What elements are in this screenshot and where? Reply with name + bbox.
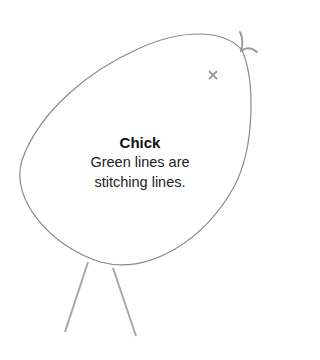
left-leg bbox=[65, 262, 88, 332]
description-line-2: stitching lines. bbox=[60, 172, 220, 192]
description-line-1: Green lines are bbox=[60, 152, 220, 172]
diagram-title: Chick bbox=[60, 133, 220, 152]
chick-label: Chick Green lines are stitching lines. bbox=[60, 133, 220, 192]
tuft-icon bbox=[240, 32, 257, 52]
close-mark-icon bbox=[210, 72, 217, 79]
right-leg bbox=[113, 268, 136, 336]
